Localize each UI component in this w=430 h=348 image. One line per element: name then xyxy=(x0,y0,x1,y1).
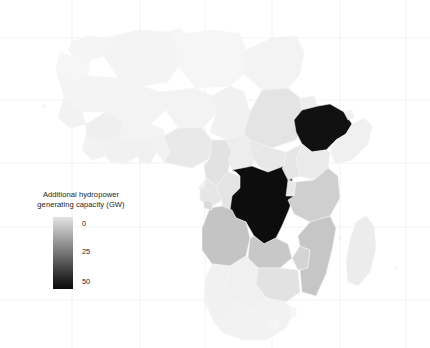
country-cabinda xyxy=(204,200,212,210)
island-capeverde xyxy=(42,104,45,107)
country-lesotho xyxy=(268,320,280,330)
legend-title: Additional hydropower generating capacit… xyxy=(22,190,140,209)
legend: Additional hydropower generating capacit… xyxy=(22,190,140,294)
colorbar-gradient xyxy=(53,217,73,289)
country-chad xyxy=(210,86,250,140)
colorbar-tick-50: 50 xyxy=(82,278,90,286)
africa-choropleth-map xyxy=(0,0,430,348)
colorbar-wrap xyxy=(53,217,73,289)
island-comoros xyxy=(338,236,341,239)
figure-root: Additional hydropower generating capacit… xyxy=(0,0,430,348)
country-eswatini xyxy=(290,308,296,316)
colorbar-tick-25: 25 xyxy=(82,248,90,256)
island-mauritius xyxy=(395,267,398,270)
colorbar-tick-0: 0 xyxy=(82,220,86,228)
